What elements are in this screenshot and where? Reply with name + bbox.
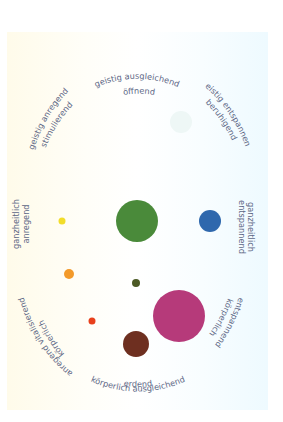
green-circle	[116, 200, 158, 242]
pale-teal-circle	[170, 111, 192, 133]
red-circle	[89, 318, 96, 325]
magenta-circle	[153, 290, 205, 342]
label-top-line2: öffnend	[122, 86, 155, 97]
label-left-line2: anregend	[21, 204, 31, 243]
aroma-effect-diagram: geistig ausgleichend öffnend geistig ent…	[0, 0, 283, 422]
circles-group	[59, 111, 222, 357]
orange-circle	[64, 269, 74, 279]
blue-circle	[199, 210, 221, 232]
brown-circle	[123, 331, 149, 357]
label-bottom-line2: körperlich ausgleichend	[90, 374, 187, 394]
label-right-line2: entspannend	[237, 200, 247, 254]
label-left-line1: ganzheitlich	[11, 199, 21, 249]
yellow-circle	[59, 218, 66, 225]
olive-circle	[132, 279, 140, 287]
label-right-line1: ganzheitlich	[246, 202, 256, 252]
